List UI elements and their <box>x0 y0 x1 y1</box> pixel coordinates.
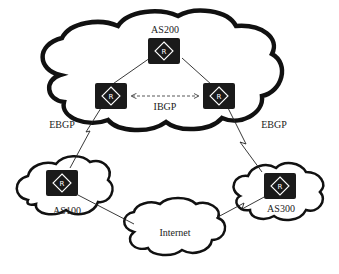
internet-label: Internet <box>159 227 190 238</box>
ibgp-label: IBGP <box>154 101 177 112</box>
router-as300: R <box>264 173 296 199</box>
router-icon: R <box>60 180 65 188</box>
ebgp-right-label: EBGP <box>261 119 287 130</box>
internet-cloud: Internet <box>124 198 225 255</box>
router-icon: R <box>162 48 167 56</box>
as100-label: AS100 <box>53 205 81 216</box>
as200-cloud: AS200 <box>43 11 282 131</box>
router-icon: R <box>217 93 222 101</box>
router-as200-right: R <box>203 83 235 109</box>
router-as200-top: R <box>148 38 180 64</box>
ebgp-left-label: EBGP <box>49 119 75 130</box>
router-as200-left: R <box>95 83 127 109</box>
as300-label: AS300 <box>267 203 295 214</box>
as200-label: AS200 <box>151 24 179 35</box>
router-icon: R <box>278 183 283 191</box>
router-as100: R <box>46 170 78 196</box>
bgp-topology-diagram: AS200 AS100 AS300 Internet IBGP EBGP EBG… <box>0 0 339 274</box>
router-icon: R <box>109 93 114 101</box>
